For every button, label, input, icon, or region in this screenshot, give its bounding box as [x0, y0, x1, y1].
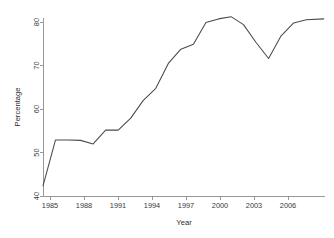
x-tick-label: 1991: [110, 201, 126, 210]
x-tick-label: 2006: [280, 201, 296, 210]
y-tick-label: 70: [32, 61, 41, 69]
y-tick-label: 40: [32, 192, 41, 200]
chart-figure: 80 70 60 50 40 1985 1988 1991 1994 1997 …: [0, 0, 334, 238]
y-tick-label: 60: [32, 105, 41, 113]
y-tick-label: 50: [32, 148, 41, 156]
x-tick-label: 1994: [144, 201, 160, 210]
x-tick-label: 2000: [212, 201, 228, 210]
y-tick-label: 80: [32, 18, 41, 26]
x-tick-label: 2003: [246, 201, 262, 210]
x-tick-label: 1997: [178, 201, 194, 210]
x-tick-label: 1988: [76, 201, 92, 210]
y-axis-title: Percentage: [13, 88, 22, 127]
x-axis-title: Year: [176, 218, 192, 227]
x-tick-label: 1985: [42, 201, 58, 210]
line-chart: 80 70 60 50 40 1985 1988 1991 1994 1997 …: [0, 0, 334, 238]
plot-area-background: [43, 18, 320, 196]
